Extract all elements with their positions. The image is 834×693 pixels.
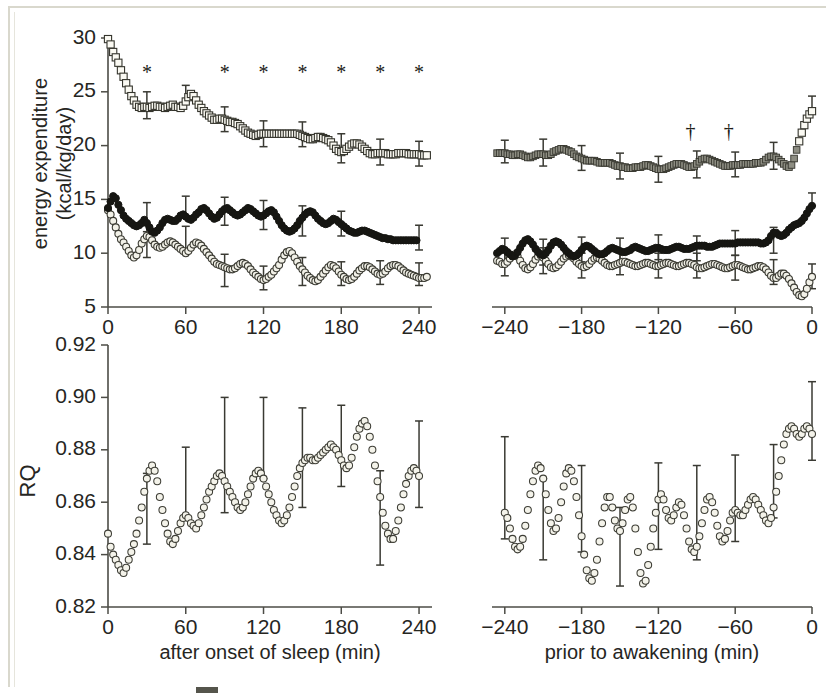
- data-point-rq: [242, 499, 249, 506]
- data-point-rq: [289, 493, 296, 500]
- data-point-rq: [681, 512, 688, 519]
- data-point-rq: [645, 562, 652, 569]
- energy-expenditure-axis-title: energy expenditure (kcal/kg/day): [29, 49, 76, 279]
- data-point-rq: [714, 522, 721, 529]
- asterisk-marker: *: [297, 61, 307, 83]
- data-point-rq: [200, 504, 207, 511]
- data-point-rq: [558, 499, 565, 506]
- data-point-rq: [369, 446, 376, 453]
- data-point-rq: [581, 551, 588, 558]
- data-point-rq: [151, 467, 158, 474]
- data-point-rq: [711, 509, 718, 516]
- data-point-rq: [619, 520, 626, 527]
- x-axis-title-left: after onset of sleep (min): [159, 641, 380, 663]
- x-tick-label: 0: [806, 315, 818, 338]
- data-point-rq: [576, 512, 583, 519]
- data-point-rq: [395, 517, 402, 524]
- data-point-open-square: [107, 41, 114, 48]
- data-point-rq: [629, 504, 636, 511]
- data-point-rq: [172, 535, 179, 542]
- significance-marks-left: *******: [142, 61, 424, 83]
- x-tick-label: 0: [102, 315, 114, 338]
- data-point-rq: [599, 520, 606, 527]
- data-point-rq: [693, 543, 700, 550]
- data-point-rq: [609, 504, 616, 511]
- data-point-open-square: [808, 108, 815, 115]
- x-tick-label: −60: [717, 615, 753, 638]
- asterisk-marker: *: [259, 61, 269, 83]
- data-point-rq: [128, 548, 135, 555]
- data-point-rq: [403, 480, 410, 487]
- data-point-rq: [364, 423, 371, 430]
- data-point-rq: [294, 473, 301, 480]
- x-tick-label: 60: [174, 615, 197, 638]
- x-tick-label: 0: [806, 615, 818, 638]
- data-point-rq: [162, 520, 169, 527]
- data-point-rq: [522, 522, 529, 529]
- data-point-rq: [529, 478, 536, 485]
- data-point-rq: [527, 491, 534, 498]
- x-tick-label: 0: [102, 615, 114, 638]
- data-point-rq: [678, 501, 685, 508]
- data-point-rq: [568, 467, 575, 474]
- data-point-rq: [647, 543, 654, 550]
- data-point-rq: [504, 514, 511, 521]
- panel-rq-right: −240−180−120−600: [481, 382, 818, 639]
- data-point-rq: [346, 462, 353, 469]
- data-point-rq: [573, 493, 580, 500]
- plot-canvas: 51015202530060120180240−240−180−120−600*…: [0, 0, 834, 693]
- data-point-rq: [141, 488, 148, 495]
- data-point-rq: [696, 533, 703, 540]
- data-point-rq: [382, 522, 389, 529]
- x-tick-label: 120: [246, 615, 281, 638]
- y-tick-label: 30: [73, 25, 96, 48]
- x-axis-title-right: prior to awakening (min): [545, 641, 760, 663]
- data-point-rq: [593, 556, 600, 563]
- data-point-rq: [397, 504, 404, 511]
- panel-rq-left: 0.820.840.860.880.900.92060120180240: [55, 332, 436, 639]
- data-point-rq: [519, 535, 526, 542]
- data-point-rq: [727, 517, 734, 524]
- data-point-rq: [622, 507, 629, 514]
- y-tick-label: 5: [84, 294, 96, 317]
- data-point-rq: [650, 525, 657, 532]
- x-tick-label: 180: [324, 615, 359, 638]
- data-point-rq: [107, 543, 114, 550]
- asterisk-marker: *: [220, 61, 230, 83]
- data-point-rq: [775, 473, 782, 480]
- data-point-rq: [686, 538, 693, 545]
- data-point-rq: [663, 507, 670, 514]
- data-point-rq: [524, 507, 531, 514]
- data-point-rq: [540, 475, 547, 482]
- data-point-open: [423, 273, 430, 280]
- data-point-rq: [203, 496, 210, 503]
- data-point-rq: [778, 457, 785, 464]
- data-point-rq: [416, 473, 423, 480]
- data-point-rq: [159, 507, 166, 514]
- data-point-rq: [283, 512, 290, 519]
- data-point-rq: [517, 543, 524, 550]
- data-point-open-square: [796, 138, 803, 145]
- data-point-rq: [555, 514, 562, 521]
- data-point-rq: [698, 520, 705, 527]
- data-point-rq: [560, 483, 567, 490]
- data-point-open-square: [115, 59, 122, 66]
- data-point-rq: [138, 504, 145, 511]
- data-point-rq: [143, 475, 150, 482]
- data-point-rq: [537, 465, 544, 472]
- data-point-rq: [130, 541, 137, 548]
- data-point-filled: [413, 237, 420, 244]
- data-point-rq: [268, 499, 275, 506]
- data-point-rq: [353, 433, 360, 440]
- x-tick-label: −180: [558, 615, 605, 638]
- ee-axis-title-line2: (kcal/kg/day): [53, 49, 77, 279]
- data-point-rq: [392, 528, 399, 535]
- data-point-rq: [637, 569, 644, 576]
- data-point-rq: [351, 444, 358, 451]
- data-point-rq: [509, 535, 516, 542]
- data-point-rq: [105, 530, 112, 537]
- data-point-rq: [198, 512, 205, 519]
- data-point-rq: [634, 548, 641, 555]
- y-tick-label: 0.88: [55, 436, 96, 459]
- data-point-rq: [601, 504, 608, 511]
